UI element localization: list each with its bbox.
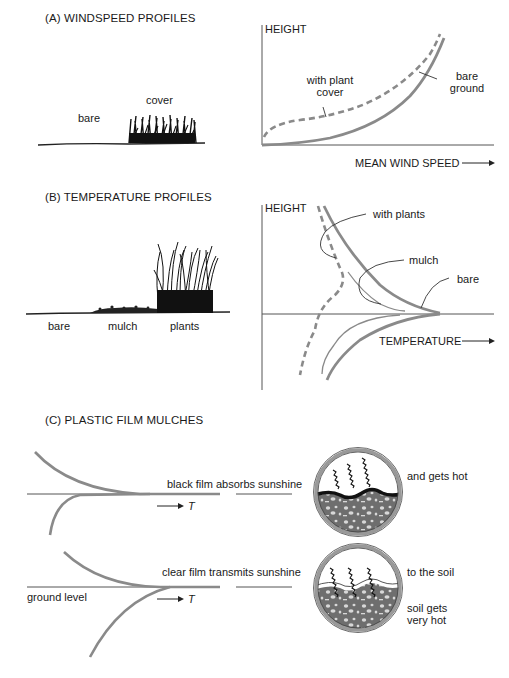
ground-level-label: ground level	[27, 591, 87, 603]
black-film-t-axis: T	[188, 500, 195, 512]
bare-label-b: bare	[48, 320, 70, 332]
temperature-ground-sketch	[26, 242, 230, 314]
panel-b-title: (B) TEMPERATURE PROFILES	[45, 191, 212, 203]
clear-film-result: to the soil	[407, 566, 454, 578]
clear-film-t-axis: T	[188, 593, 195, 605]
temperature-y-axis-label: HEIGHT	[265, 202, 307, 214]
mulch-curve-label: mulch	[409, 254, 438, 266]
plants-label-b: plants	[170, 320, 199, 332]
windspeed-x-axis-label: MEAN WIND SPEED	[355, 157, 460, 169]
black-film-caption: black film absorbs sunshine	[167, 478, 302, 490]
clear-film-soil-icon	[310, 544, 410, 646]
bare-curve-label: bare	[457, 273, 479, 285]
panel-c-title: (C) PLASTIC FILM MULCHES	[45, 414, 203, 426]
mulch-label-b: mulch	[108, 320, 137, 332]
clear-film-caption: clear film transmits sunshine	[162, 566, 301, 578]
cover-sketch-label: cover	[146, 94, 173, 106]
windspeed-ground-sketch	[38, 115, 205, 145]
bare-ground-curve-label: bare ground	[437, 70, 497, 94]
bare-temp-curve-below	[327, 314, 440, 380]
bare-sketch-label: bare	[78, 112, 100, 124]
windspeed-y-axis-label: HEIGHT	[265, 23, 307, 35]
black-film-curve-below	[50, 494, 150, 535]
temperature-axes	[262, 205, 495, 390]
with-plants-curve-label: with plants	[373, 208, 425, 220]
black-film-result: and gets hot	[407, 470, 468, 482]
soil-hot-label: soil gets very hot	[407, 602, 447, 626]
plant-cover-curve-label: with plant cover	[290, 74, 370, 98]
clear-film-curve-below	[90, 587, 170, 657]
mulch-temp-curve-above	[348, 272, 405, 311]
black-film-soil-icon	[310, 448, 410, 551]
temperature-x-axis-label: TEMPERATURE	[379, 335, 461, 347]
